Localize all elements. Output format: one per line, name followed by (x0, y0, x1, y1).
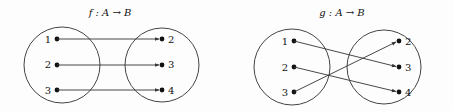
codomain-element-label: 3 (168, 59, 174, 70)
mapping-arrow (294, 67, 396, 92)
domain-element-label: 3 (45, 85, 51, 96)
codomain-element-label: 4 (405, 87, 411, 98)
diagram-g: g : A → B 1 2 3 2 3 4 (254, 7, 421, 105)
domain-element-label: 1 (45, 34, 51, 45)
domain-element-label: 2 (45, 59, 51, 70)
function-mapping-diagrams: f : A → B 1 2 3 2 3 4 g : A → B 1 2 3 (0, 0, 453, 111)
domain-element-label: 1 (282, 36, 288, 47)
codomain-element-label: 3 (405, 62, 411, 73)
codomain-point (160, 63, 165, 68)
mapping-arrow (294, 42, 396, 92)
codomain-point (160, 88, 165, 93)
codomain-point (397, 65, 402, 70)
codomain-point (397, 39, 402, 44)
codomain-point (160, 37, 165, 42)
codomain-element-label: 2 (168, 34, 174, 45)
diagram-title: f : A → B (88, 7, 132, 18)
domain-element-label: 2 (282, 62, 288, 73)
codomain-element-label: 2 (405, 36, 411, 47)
diagram-title: g : A → B (319, 7, 364, 18)
codomain-element-label: 4 (168, 85, 174, 96)
codomain-point (397, 90, 402, 95)
domain-element-label: 3 (282, 87, 288, 98)
diagram-f: f : A → B 1 2 3 2 3 4 (24, 7, 199, 103)
mapping-arrow (294, 41, 396, 67)
